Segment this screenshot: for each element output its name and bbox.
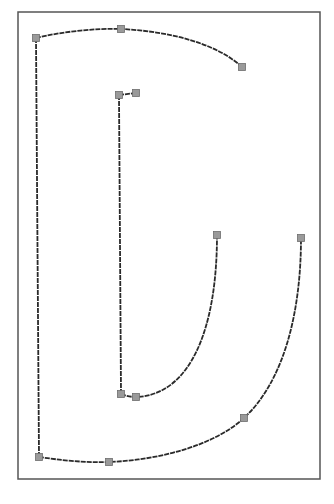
inner-right-top-point[interactable] [214, 232, 221, 239]
outer-bottom-mid-point[interactable] [106, 459, 113, 466]
control-points [33, 26, 305, 466]
inner-top-left-point[interactable] [116, 92, 123, 99]
outer-bottom-left-point[interactable] [36, 454, 43, 461]
outline-paths [36, 29, 301, 462]
outer-top-left-point[interactable] [33, 35, 40, 42]
outer-left-stem-path [36, 38, 39, 457]
inner-top-right-point[interactable] [133, 90, 140, 97]
outer-top-mid-point[interactable] [118, 26, 125, 33]
outer-bottom-bowl-path [39, 238, 301, 462]
inner-bottom-left-point[interactable] [118, 391, 125, 398]
inner-bowl-path [121, 235, 217, 397]
outer-top-end-point[interactable] [239, 64, 246, 71]
bounding-frame [18, 12, 320, 479]
outer-top-arc-path [36, 29, 242, 67]
inner-bottom-mid-point[interactable] [133, 394, 140, 401]
outer-bottom-right-point[interactable] [241, 415, 248, 422]
glyph-outline-canvas [0, 0, 334, 504]
outer-right-top-point[interactable] [298, 235, 305, 242]
inner-stem-path [119, 95, 121, 394]
